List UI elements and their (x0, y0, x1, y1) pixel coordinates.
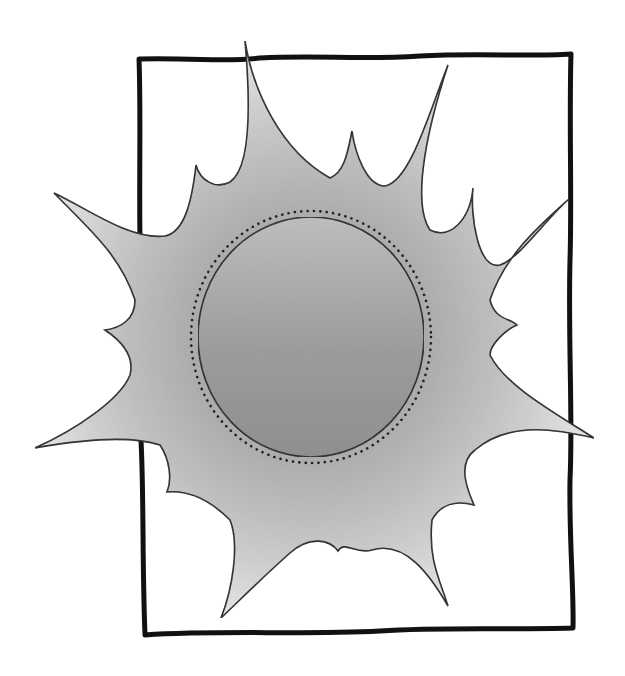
sun-core (198, 217, 424, 457)
illustration: Sun clip-art in hand-drawn frame (0, 0, 625, 676)
sun-illustration-svg (0, 0, 625, 676)
